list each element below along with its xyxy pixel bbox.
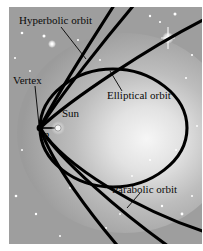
orbit-diagram-svg: [9, 7, 202, 244]
vertex-marker: [37, 125, 44, 132]
vertex-label: Vertex: [13, 75, 42, 86]
orbits-figure: Hyperbolic orbit Vertex Sun p Elliptical…: [0, 0, 203, 251]
bright-star-secondary: [48, 40, 56, 48]
sun-label: Sun: [62, 108, 79, 119]
elliptical-orbit-label: Elliptical orbit: [107, 90, 171, 101]
semi-latus-rectum-label: p: [44, 129, 49, 140]
starfield-canvas: Hyperbolic orbit Vertex Sun p Elliptical…: [9, 7, 202, 244]
parabolic-orbit-label: Parabolic orbit: [112, 184, 177, 195]
hyperbolic-orbit-label: Hyperbolic orbit: [19, 15, 92, 26]
sun-marker: [55, 125, 61, 131]
